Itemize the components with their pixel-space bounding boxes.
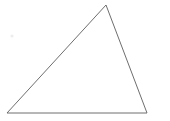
triangle-figure (0, 0, 170, 121)
drawing-canvas (0, 0, 170, 121)
canvas-background (0, 0, 170, 121)
faint-speck-artifact (10, 34, 13, 37)
